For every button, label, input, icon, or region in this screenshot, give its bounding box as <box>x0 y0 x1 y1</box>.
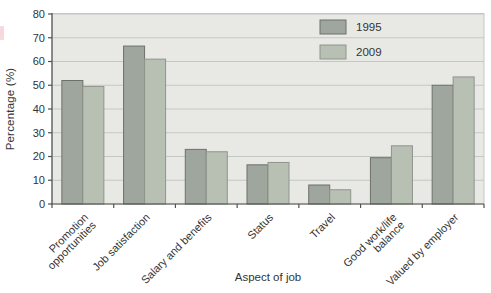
bar-1995-4 <box>247 165 268 204</box>
x-category-label: Promotionopportunities <box>37 211 98 272</box>
bar-1995-3 <box>185 149 206 204</box>
bar-1995-6 <box>370 158 391 204</box>
x-axis-title: Aspect of job <box>178 271 358 283</box>
bar-2009-5 <box>330 190 351 204</box>
x-category-label: Travel <box>307 211 337 241</box>
bar-2009-6 <box>391 146 412 204</box>
grouped-bar-chart-figure: Percentage (%) 01020304050607080Promotio… <box>0 0 491 293</box>
bar-1995-5 <box>309 185 330 204</box>
bar-2009-1 <box>83 86 104 204</box>
chart-canvas: 01020304050607080PromotionopportunitiesJ… <box>0 0 491 293</box>
legend-label-1995: 1995 <box>356 21 382 33</box>
y-tick-label: 0 <box>39 198 45 210</box>
bar-2009-3 <box>206 152 227 204</box>
bar-2009-7 <box>453 77 474 204</box>
x-category-label: Status <box>245 211 276 242</box>
y-tick-label: 70 <box>33 32 45 44</box>
bar-2009-4 <box>268 162 289 204</box>
y-tick-label: 20 <box>33 150 45 162</box>
y-tick-label: 80 <box>33 8 45 20</box>
legend-swatch-2009 <box>320 45 346 59</box>
y-tick-label: 60 <box>33 55 45 67</box>
bar-1995-1 <box>62 81 83 205</box>
bar-1995-7 <box>432 85 453 204</box>
y-tick-label: 40 <box>33 103 45 115</box>
bar-2009-2 <box>145 59 166 204</box>
bar-1995-2 <box>124 46 145 204</box>
y-tick-label: 10 <box>33 174 45 186</box>
y-tick-label: 50 <box>33 79 45 91</box>
legend-label-2009: 2009 <box>356 46 382 58</box>
legend-swatch-1995 <box>320 20 346 34</box>
y-tick-label: 30 <box>33 127 45 139</box>
x-category-label: Job satisfaction <box>90 211 152 273</box>
